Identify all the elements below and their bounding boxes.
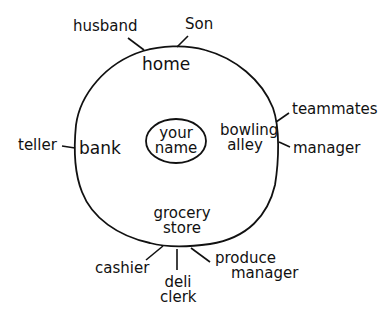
bank-label: bank: [79, 140, 121, 157]
teller-label: teller: [18, 138, 57, 153]
teller-connector: [62, 146, 75, 148]
grocery-store-label: grocery store: [152, 206, 212, 236]
teammates-label: teammates: [292, 102, 378, 117]
deli-line2: clerk: [160, 290, 196, 305]
deli-clerk-label: deli clerk: [160, 275, 196, 305]
cashier-label: cashier: [95, 261, 149, 276]
cashier-connector: [146, 246, 163, 260]
husband-label: husband: [73, 19, 138, 34]
grocery-line2: store: [152, 221, 212, 236]
son-label: Son: [185, 17, 213, 32]
husband-connector: [128, 38, 144, 50]
your-name-label: your name: [148, 126, 204, 156]
bowling-alley-label: bowling alley: [220, 123, 270, 153]
bowling-manager-label: manager: [293, 141, 360, 156]
your-name-line2: name: [148, 141, 204, 156]
produce-line2: manager: [231, 266, 298, 281]
son-connector: [177, 36, 188, 47]
bowling-manager-connector: [279, 142, 290, 147]
produce-connector: [191, 248, 210, 262]
home-label: home: [142, 56, 190, 73]
produce-manager-label: produce manager: [215, 251, 298, 281]
bowling-line2: alley: [220, 138, 270, 153]
